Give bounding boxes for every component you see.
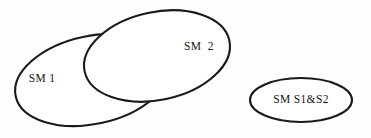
set-label-sm-s1-s2: SM S1&S2	[273, 93, 329, 105]
venn-diagram-svg: SM 1 SM 2 SM S1&S2	[0, 0, 371, 138]
venn-diagram-canvas: SM 1 SM 2 SM S1&S2	[0, 0, 371, 138]
set-label-sm2: SM 2	[184, 40, 214, 52]
set-label-sm1: SM 1	[29, 72, 56, 84]
